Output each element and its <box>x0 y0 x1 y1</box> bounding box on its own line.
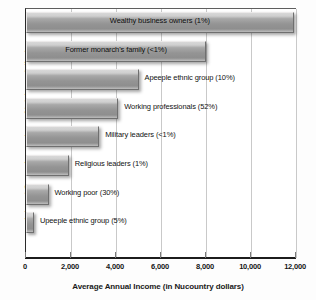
x-tick-label: 6,000 <box>151 262 169 271</box>
x-tick-mark <box>250 252 251 258</box>
bar <box>26 98 118 119</box>
bar <box>26 155 69 176</box>
bar-label: Military leaders (<1%) <box>105 129 176 141</box>
bar <box>26 212 34 233</box>
bar-label: Former monarch's family (<1%) <box>26 44 206 56</box>
bar-label: Working poor (30%) <box>55 187 120 199</box>
bar <box>26 184 49 205</box>
bar-chart: Interest Group (percentage of total popu… <box>0 0 316 300</box>
bar-row: Upeeple ethnic group (5%) <box>26 212 296 236</box>
gridline <box>296 9 297 258</box>
x-tick-mark <box>70 252 71 258</box>
bar-label: Wealthy business owners (1%) <box>26 15 294 27</box>
x-tick-label: 4,000 <box>106 262 124 271</box>
bar-row: Former monarch's family (<1%) <box>26 41 296 65</box>
bar-row: Military leaders (<1%) <box>26 126 296 150</box>
bar-label: Religious leaders (1%) <box>75 158 148 170</box>
x-tick-mark <box>115 252 116 258</box>
bar <box>26 69 139 90</box>
x-tick-label: 0 <box>23 262 27 271</box>
bar <box>26 126 99 147</box>
x-tick-label: 12,000 <box>284 262 306 271</box>
x-tick-mark <box>205 252 206 258</box>
bar-row: Working professionals (52%) <box>26 98 296 122</box>
plot-area: Wealthy business owners (1%)Former monar… <box>25 8 296 258</box>
bar-row: Apeeple ethnic group (10%) <box>26 69 296 93</box>
bar-row: Religious leaders (1%) <box>26 155 296 179</box>
x-tick-label: 2,000 <box>61 262 79 271</box>
x-tick-mark <box>295 252 296 258</box>
bar-label: Apeeple ethnic group (10%) <box>145 72 235 84</box>
bar-label: Upeeple ethnic group (5%) <box>40 215 127 227</box>
x-tick-mark <box>160 252 161 258</box>
x-axis-title: Average Annual Income (in Nucountry doll… <box>0 282 316 291</box>
bar-label: Working professionals (52%) <box>124 101 217 113</box>
x-tick-label: 10,000 <box>239 262 261 271</box>
bar-series: Wealthy business owners (1%)Former monar… <box>26 9 296 258</box>
x-tick-mark <box>25 252 26 258</box>
x-tick-label: 8,000 <box>196 262 214 271</box>
bar-row: Working poor (30%) <box>26 184 296 208</box>
bar-row: Wealthy business owners (1%) <box>26 12 296 36</box>
